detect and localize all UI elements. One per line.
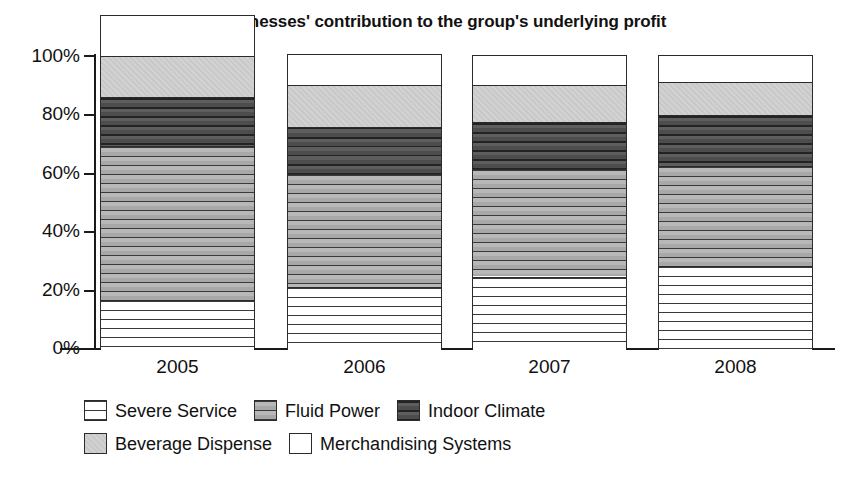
x-axis-label-2008: 2008 (658, 356, 813, 378)
legend-item-indoor-climate[interactable]: Indoor Climate (397, 400, 545, 421)
y-tick-label-40: 40% (4, 220, 80, 242)
bar-segment-severe-service-2007 (473, 277, 626, 351)
bar-segment-beverage-dispense-2007 (473, 85, 626, 122)
legend-swatch-merchandising-systems-icon (289, 433, 312, 454)
legend-item-severe-service[interactable]: Severe Service (84, 400, 237, 421)
legend-item-beverage-dispense[interactable]: Beverage Dispense (84, 433, 272, 454)
legend-swatch-beverage-dispense-icon (84, 433, 107, 454)
legend-item-merchandising-systems[interactable]: Merchandising Systems (289, 433, 511, 454)
y-tick-mark-80 (84, 114, 95, 116)
y-axis-labels: 100% 80% 60% 40% 20% 0% (0, 0, 80, 494)
x-axis-label-2007: 2007 (472, 356, 627, 378)
x-axis-label-2005: 2005 (100, 356, 255, 378)
bar-segment-beverage-dispense-2005 (101, 56, 254, 97)
bar-segment-severe-service-2008 (659, 266, 812, 350)
y-tick-mark-20 (84, 290, 95, 292)
x-axis-label-2006: 2006 (287, 356, 442, 378)
legend-row-2: Beverage DispenseMerchandising Systems (84, 427, 784, 460)
chart-legend: Severe ServiceFluid PowerIndoor Climate … (84, 394, 784, 460)
bar-segment-severe-service-2005 (101, 300, 254, 350)
bar-segment-merchandising-systems-2007 (473, 56, 626, 85)
bar-segment-indoor-climate-2006 (288, 127, 441, 174)
bar-segment-beverage-dispense-2006 (288, 85, 441, 126)
y-tick-mark-60 (84, 173, 95, 175)
bar-2007 (472, 55, 627, 349)
bar-2008 (658, 55, 813, 349)
bar-segment-fluid-power-2008 (659, 166, 812, 266)
y-tick-label-80: 80% (4, 103, 80, 125)
legend-swatch-fluid-power-icon (254, 400, 277, 421)
bar-segment-merchandising-systems-2008 (659, 56, 812, 82)
bar-2006 (287, 54, 442, 349)
bar-segment-fluid-power-2005 (101, 146, 254, 300)
y-tick-label-20: 20% (4, 279, 80, 301)
bar-segment-merchandising-systems-2005 (101, 16, 254, 56)
legend-label-fluid-power: Fluid Power (285, 402, 380, 420)
legend-label-indoor-climate: Indoor Climate (428, 402, 545, 420)
legend-item-fluid-power[interactable]: Fluid Power (254, 400, 380, 421)
bar-segment-indoor-climate-2005 (101, 97, 254, 146)
bar-segment-indoor-climate-2007 (473, 122, 626, 169)
y-tick-mark-100 (84, 55, 95, 57)
bar-segment-severe-service-2006 (288, 287, 441, 350)
legend-swatch-severe-service-icon (84, 400, 107, 421)
bar-segment-fluid-power-2006 (288, 174, 441, 287)
bar-segment-merchandising-systems-2006 (288, 55, 441, 86)
bar-segment-fluid-power-2007 (473, 169, 626, 276)
legend-label-merchandising-systems: Merchandising Systems (320, 435, 511, 453)
bar-segment-indoor-climate-2008 (659, 115, 812, 166)
bar-2005 (100, 15, 255, 349)
y-tick-label-60: 60% (4, 162, 80, 184)
y-tick-label-100: 100% (4, 45, 80, 67)
bar-segment-beverage-dispense-2008 (659, 82, 812, 114)
y-tick-mark-40 (84, 231, 95, 233)
stacked-bar-chart: The businesses' contribution to the grou… (0, 0, 846, 494)
legend-swatch-indoor-climate-icon (397, 400, 420, 421)
legend-label-beverage-dispense: Beverage Dispense (115, 435, 272, 453)
legend-label-severe-service: Severe Service (115, 402, 237, 420)
legend-row-1: Severe ServiceFluid PowerIndoor Climate (84, 394, 784, 427)
